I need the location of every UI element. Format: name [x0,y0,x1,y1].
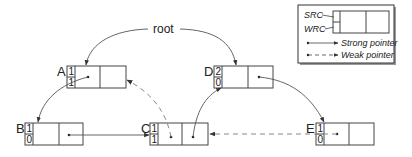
node-b-src: 1 [27,123,33,134]
node-d: D 2 0 [204,64,273,88]
node-c-wrc: 1 [152,134,158,145]
root-label: root [153,22,174,36]
root-to-d-edge [180,29,236,65]
node-b-wrc: 0 [27,134,33,145]
reference-count-diagram: root A 1 1 B 1 0 C 1 1 D [0,0,412,157]
node-c-src: 1 [152,123,158,134]
node-b: B 1 0 [16,121,83,145]
node-b-box [25,123,83,145]
legend-src-label: SRC [304,10,324,20]
legend-weak-label: Weak pointer [341,50,395,60]
node-b-label: B [16,121,25,136]
node-d-box [214,66,273,88]
legend-wrc-label: WRC [304,24,326,34]
node-a-src: 1 [69,66,75,77]
legend: SRC WRC Strong pointer Weak pointer [298,5,399,65]
root-pointer: root [86,22,236,65]
node-a-label: A [57,64,66,79]
node-d-wrc: 0 [216,77,222,88]
node-e-src: 1 [318,123,324,134]
node-c: C 1 1 [141,121,208,145]
legend-strong-label: Strong pointer [341,38,399,48]
node-e: E 1 0 [306,121,374,145]
root-to-a-edge [86,29,148,65]
node-a-box [67,66,126,88]
node-c-box [150,123,208,145]
node-e-wrc: 0 [318,134,324,145]
node-d-src: 2 [216,66,222,77]
node-c-label: C [141,121,150,136]
node-d-label: D [204,64,213,79]
